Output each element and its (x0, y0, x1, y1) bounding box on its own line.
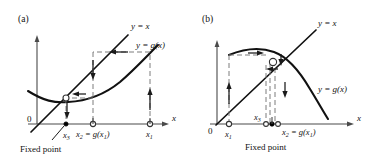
panel-a-tag: (a) (18, 14, 29, 25)
panel-a-arrow-down-x3 (64, 102, 69, 119)
panel-a: (a) x 0 y = x y = g(x) (0, 0, 190, 163)
panel-a-fixed-point-marker (63, 95, 69, 101)
panel-a-arrow-down-x2 (90, 60, 95, 80)
panel-b-identity-label: y = x (317, 18, 337, 28)
panel-b-origin-label: 0 (208, 126, 213, 136)
panel-a-fixed-point-label: Fixed point (20, 144, 62, 154)
panel-a-function-label: y = g(x) (135, 40, 165, 50)
panel-a-identity-label: y = x (130, 21, 150, 31)
panel-b-tick-label-x1: x1 (224, 129, 232, 140)
panel-a-arrow-up-x1 (147, 88, 152, 110)
panel-a-origin-label: 0 (27, 114, 32, 124)
panel-b-fixed-point-marker (269, 58, 276, 65)
panel-b-tick-x1-dot (226, 121, 231, 126)
panel-b-tick-x2-dot (276, 122, 281, 127)
panel-b-tag: (b) (202, 14, 213, 25)
panel-a-tick-label-x2: x2 = g(x1) (75, 129, 110, 140)
panel-b-arrow-up-x1 (226, 82, 231, 104)
figure-root: (a) x 0 y = x y = g(x) (0, 0, 380, 163)
panel-b-function-label: y = g(x) (317, 84, 347, 94)
panel-b-tick-label-x3: x3 (253, 112, 261, 123)
panel-a-tick-label-x1: x1 (145, 129, 153, 140)
panel-b-fixed-point-label: Fixed point (245, 142, 287, 152)
panel-b-y-axis (215, 40, 220, 124)
panel-a-x-axis-label: x (171, 113, 176, 123)
panel-b-function-curve (229, 49, 328, 119)
panel-a-tick-label-x3: x3 (62, 130, 70, 141)
panel-a-identity-line (31, 35, 128, 132)
panel-b-tick-x3-dot (264, 122, 269, 127)
panel-b-x-axis-label: x (356, 113, 361, 123)
panel-a-arrow-left-lower (72, 91, 86, 96)
panel-b-arrow-down-x2 (282, 82, 287, 98)
panel-a-tick-x3-dot (64, 122, 68, 126)
panel-b: (b) x 0 y = x y = g(x) (190, 0, 380, 163)
panel-b-tick-label-x2: x2 = g(x1) (281, 127, 316, 138)
panel-a-y-axis (35, 35, 40, 124)
